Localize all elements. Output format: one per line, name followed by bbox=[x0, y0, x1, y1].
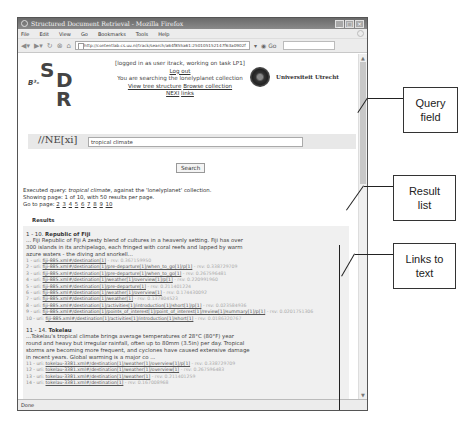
links-link[interactable]: links bbox=[181, 90, 194, 96]
university-logo: Universiteit Utrecht bbox=[250, 67, 339, 87]
callout-links-to-text: Links to text bbox=[393, 243, 456, 289]
browse-collection-link[interactable]: Browse collection bbox=[183, 83, 232, 89]
firefox-icon bbox=[21, 20, 28, 27]
showing-page: Showing page: 1 of 10, with 50 results p… bbox=[23, 194, 211, 201]
page-content: S D R B³- [logged in as user itrack, wor… bbox=[18, 54, 359, 399]
sdr-logo: S D R B³- bbox=[28, 58, 88, 112]
page-link[interactable]: 5 bbox=[75, 201, 78, 207]
execution-info: Executed query: tropical climate, agains… bbox=[23, 187, 211, 208]
page-link[interactable]: 6 bbox=[81, 201, 84, 207]
forward-icon[interactable]: ▶▾ bbox=[34, 42, 43, 50]
view-tree-link[interactable]: View tree structure bbox=[128, 83, 181, 89]
query-input[interactable]: tropical climate bbox=[88, 137, 303, 147]
title-bar: Structured Document Retrieval - Mozilla … bbox=[18, 18, 367, 29]
page-link[interactable]: 2 bbox=[56, 201, 59, 207]
url-bar[interactable]: http://contentlab.cs.uu.nl/track/search/… bbox=[75, 41, 250, 50]
throbber-icon bbox=[357, 30, 364, 37]
callout-line bbox=[355, 254, 393, 255]
page-link[interactable]: 8 bbox=[93, 201, 96, 207]
reload-icon[interactable]: ↻ bbox=[47, 42, 53, 50]
go-icon[interactable]: ◉ Go bbox=[261, 42, 276, 49]
page-link[interactable]: 10 bbox=[106, 201, 113, 207]
executed-query: tropical climate bbox=[68, 187, 110, 193]
nexi-logo: //NE[xi] bbox=[38, 134, 77, 145]
callout-result-list: Result list bbox=[393, 175, 456, 221]
result-snippet: ...Tokelau's tropical climate brings ave… bbox=[26, 333, 251, 361]
callout-bracket-line bbox=[339, 245, 340, 410]
callout-line bbox=[368, 98, 403, 99]
url-dropdown-icon[interactable]: ▾ bbox=[254, 42, 257, 49]
pagination: Go to page: 2 3 4 5 6 7 8 9 10 bbox=[23, 201, 211, 208]
browser-search-box[interactable] bbox=[283, 41, 335, 50]
results-list: 1 - 10. Republic of Fiji ... Fiji Republ… bbox=[23, 226, 349, 399]
page-link[interactable]: 7 bbox=[87, 201, 90, 207]
page-link[interactable]: 4 bbox=[69, 201, 72, 207]
menu-view[interactable]: View bbox=[59, 31, 71, 37]
status-bar: Done bbox=[18, 399, 367, 410]
callout-line bbox=[364, 186, 393, 187]
page-link[interactable]: 3 bbox=[62, 201, 65, 207]
stop-icon[interactable]: ⊗ bbox=[57, 42, 63, 50]
menu-edit[interactable]: Edit bbox=[39, 31, 49, 37]
menu-bookmarks[interactable]: Bookmarks bbox=[98, 31, 126, 37]
callout-query-field: Query field bbox=[403, 87, 458, 133]
minimize-button[interactable]: _ bbox=[335, 20, 344, 28]
collection-note: You are searching the lonelyplanet colle… bbox=[110, 75, 250, 83]
scrollbar-thumb[interactable] bbox=[360, 62, 366, 184]
result-link: 14 - uri: tokelau-3381.xml#/destination[… bbox=[26, 380, 346, 386]
maximize-button[interactable]: □ bbox=[345, 20, 354, 28]
menu-help[interactable]: Help bbox=[158, 31, 169, 37]
close-button[interactable]: × bbox=[355, 20, 364, 28]
menu-tools[interactable]: Tools bbox=[136, 31, 148, 37]
browser-window: Structured Document Retrieval - Mozilla … bbox=[17, 17, 368, 411]
session-info: [logged in as user itrack, working on ta… bbox=[110, 60, 250, 98]
university-seal-icon bbox=[250, 67, 270, 87]
scroll-down-icon[interactable]: ▼ bbox=[360, 392, 366, 398]
menu-file[interactable]: File bbox=[21, 31, 29, 37]
home-icon[interactable]: ⌂ bbox=[67, 42, 71, 50]
page-link[interactable]: 9 bbox=[99, 201, 102, 207]
logout-link[interactable]: Log out bbox=[170, 68, 191, 74]
results-heading: Results bbox=[32, 217, 55, 223]
scroll-up-icon[interactable]: ▲ bbox=[360, 55, 366, 61]
logged-in-text: [logged in as user itrack, working on ta… bbox=[110, 60, 250, 68]
back-icon[interactable]: ◀▾ bbox=[21, 42, 30, 50]
university-name: Universiteit Utrecht bbox=[276, 74, 339, 80]
nexi-link[interactable]: NEXI bbox=[166, 90, 179, 96]
window-title: Structured Document Retrieval - Mozilla … bbox=[31, 20, 334, 27]
result-link: 10 - uri: fiji-885.xml#/destination[1]/a… bbox=[26, 316, 346, 322]
search-button[interactable]: Search bbox=[176, 163, 205, 173]
result-snippet: ... Fiji Republic of Fiji A zesty blend … bbox=[26, 237, 251, 258]
menu-go[interactable]: Go bbox=[81, 31, 88, 37]
navigation-toolbar: ◀▾ ▶▾ ↻ ⊗ ⌂ http://contentlab.cs.uu.nl/t… bbox=[18, 39, 367, 53]
menu-bar: File Edit View Go Bookmarks Tools Help bbox=[18, 29, 367, 39]
